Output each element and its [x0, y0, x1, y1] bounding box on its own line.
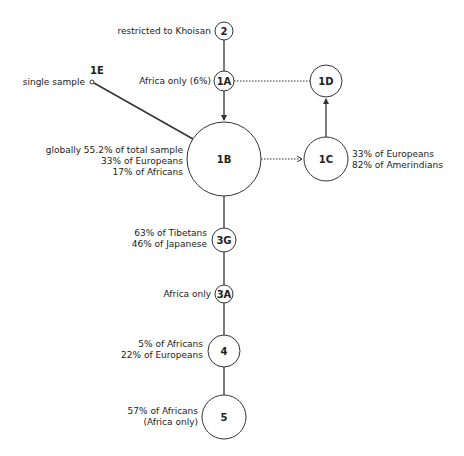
node-1B-label: 1B	[217, 154, 232, 165]
annotation-4-line1: 5% of Africans	[138, 339, 203, 349]
annotation-1B-line2: 33% of Europeans	[101, 156, 183, 166]
annotation-1B-line1: globally 55.2% of total sample	[46, 145, 184, 155]
nodes: 2 1A 1E 1D 1B 1C 3G 3A	[90, 22, 348, 439]
node-1C-label: 1C	[319, 154, 333, 165]
haplogroup-network-diagram: 2 1A 1E 1D 1B 1C 3G 3A	[0, 0, 464, 456]
node-1C: 1C	[304, 137, 348, 181]
annotation-1C-line1: 33% of Europeans	[352, 149, 434, 159]
node-1D: 1D	[310, 65, 342, 97]
annotation-3A: Africa only	[163, 289, 211, 299]
edges	[94, 40, 326, 395]
node-4-label: 4	[221, 346, 228, 357]
node-1E-circle	[90, 80, 94, 84]
annotation-3G-line2: 46% of Japanese	[132, 239, 208, 249]
annotation-1B-line3: 17% of Africans	[113, 167, 184, 177]
node-1A: 1A	[214, 71, 234, 91]
node-5-label: 5	[221, 412, 228, 423]
annotation-5-line2: (Africa only)	[143, 417, 198, 427]
node-2-label: 2	[221, 26, 228, 37]
annotation-2: restricted to Khoisan	[118, 26, 211, 36]
annotation-4-line2: 22% of Europeans	[121, 350, 203, 360]
node-2: 2	[215, 22, 233, 40]
annotation-1E: single sample	[23, 77, 86, 87]
annotation-1A: Africa only (6%)	[139, 76, 211, 86]
node-1D-label: 1D	[318, 76, 333, 87]
node-1B: 1B	[187, 122, 261, 196]
node-3G: 3G	[212, 228, 236, 252]
annotation-3G-line1: 63% of Tibetans	[134, 228, 207, 238]
node-1E: 1E	[90, 65, 104, 85]
annotation-5-line1: 57% of Africans	[128, 406, 199, 416]
node-3G-label: 3G	[216, 235, 231, 246]
edge-1E-1B	[94, 83, 193, 139]
node-4: 4	[208, 335, 240, 367]
node-3A-label: 3A	[217, 289, 232, 300]
node-3A: 3A	[215, 285, 233, 303]
node-5: 5	[202, 395, 246, 439]
node-1A-label: 1A	[217, 76, 232, 87]
annotation-1C-line2: 82% of Amerindians	[352, 160, 443, 170]
node-1E-label: 1E	[90, 65, 104, 76]
